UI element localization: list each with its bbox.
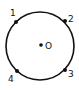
circle-diagram: O 1 2 3 4 [0, 0, 79, 94]
center-point [39, 43, 43, 47]
center-label: O [45, 41, 52, 51]
point-1-label: 1 [10, 8, 16, 18]
point-3 [63, 68, 67, 72]
point-2 [63, 19, 67, 23]
point-3-label: 3 [68, 69, 74, 79]
point-4-label: 4 [8, 74, 14, 84]
point-1 [14, 20, 18, 24]
point-2-label: 2 [68, 14, 74, 24]
point-4 [15, 69, 19, 73]
